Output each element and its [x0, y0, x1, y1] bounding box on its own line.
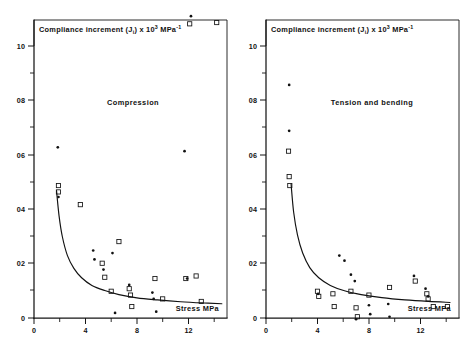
- data-point-filled-dot: [190, 15, 193, 18]
- data-point-filled-dot: [152, 298, 155, 301]
- plot-frame-left: [34, 20, 227, 318]
- y-ticks-left: [28, 46, 34, 318]
- svg-text:Compliance increment (Ji) x 10: Compliance increment (Ji) x 103 MPa-1: [271, 24, 413, 35]
- data-point-open-square: [387, 285, 391, 289]
- data-point-open-square: [56, 183, 60, 187]
- chart-title-right: Compliance increment (Ji) x 103 MPa-1: [271, 24, 413, 35]
- data-point-filled-dot: [186, 277, 189, 280]
- data-point-open-square: [100, 261, 104, 265]
- y-tick-label: 06: [249, 151, 257, 160]
- data-point-open-square: [188, 22, 192, 26]
- x-axis-name-left: Stress MPa: [176, 304, 220, 313]
- data-point-open-square: [331, 292, 335, 296]
- y-tick-label: 08: [249, 96, 257, 105]
- data-point-filled-dot: [369, 313, 372, 316]
- x-tick-labels-right: 0 4 8 12: [264, 326, 425, 335]
- data-point-open-square: [286, 149, 290, 153]
- data-point-filled-dot: [338, 254, 341, 257]
- data-point-open-square: [413, 279, 417, 283]
- data-point-filled-dot: [128, 284, 131, 287]
- series-annotation-right: Tension and bending: [331, 98, 413, 107]
- fit-curve-right: [291, 184, 450, 302]
- chart-svg-right: 10 08 06 04 02 0 0 4 8 12: [232, 0, 463, 348]
- y-tick-labels-left: 10 08 06 04 02 0: [17, 42, 25, 323]
- fit-curve-path: [57, 191, 222, 304]
- data-point-open-square: [194, 274, 198, 278]
- chart-panel-compression: 10 08 06 04 02 0 0 4 8 12: [0, 0, 231, 348]
- data-point-filled-dot: [57, 196, 60, 199]
- x-tick-label: 4: [315, 326, 319, 335]
- x-tick-label: 12: [416, 326, 424, 335]
- data-point-open-square: [215, 20, 219, 24]
- y-tick-label: 10: [249, 42, 257, 51]
- plot-frame-right: [266, 20, 459, 318]
- data-point-filled-dot: [343, 259, 346, 262]
- x-ticks-left: [34, 318, 214, 324]
- x-axis-label: Stress MPa: [176, 304, 220, 313]
- svg-text:Compliance increment (Ji) x 10: Compliance increment (Ji) x 103 MPa-1: [39, 24, 181, 35]
- data-point-filled-dot: [388, 315, 391, 318]
- data-points-right: [286, 84, 449, 321]
- data-point-filled-dot: [56, 146, 59, 149]
- data-point-open-square: [354, 306, 358, 310]
- axes-right: [266, 20, 459, 318]
- x-tick-label: 4: [83, 326, 87, 335]
- data-point-filled-dot: [427, 295, 430, 298]
- title-mid: ) x 10: [134, 25, 154, 34]
- data-point-filled-dot: [92, 249, 95, 252]
- data-point-filled-dot: [183, 150, 186, 153]
- data-point-open-square: [130, 304, 134, 308]
- y-tick-label: 10: [17, 42, 25, 51]
- data-points-left: [56, 15, 218, 314]
- data-point-filled-dot: [424, 287, 427, 290]
- data-point-open-square: [287, 175, 291, 179]
- data-point-open-square: [127, 287, 131, 291]
- data-point-filled-dot: [355, 318, 358, 321]
- title-mid: ) x 10: [366, 25, 386, 34]
- data-point-filled-dot: [111, 252, 114, 255]
- title-lead: Compliance increment (J: [39, 25, 133, 34]
- figure-container: 10 08 06 04 02 0 0 4 8 12: [0, 0, 463, 348]
- annotation-tension-bending: Tension and bending: [331, 98, 413, 107]
- axes-left: [34, 20, 227, 318]
- data-point-filled-dot: [387, 303, 390, 306]
- fit-curve-path: [291, 184, 450, 302]
- data-point-filled-dot: [317, 292, 320, 295]
- title-unit-superscript: -1: [176, 24, 181, 30]
- data-point-filled-dot: [114, 312, 117, 315]
- y-tick-label: 04: [249, 205, 257, 214]
- y-tick-label: 08: [17, 96, 25, 105]
- y-tick-labels-right: 10 08 06 04 02 0: [249, 42, 257, 323]
- data-point-filled-dot: [288, 129, 291, 132]
- y-tick-label: 0: [21, 314, 25, 323]
- data-point-open-square: [117, 239, 121, 243]
- chart-svg-left: 10 08 06 04 02 0 0 4 8 12: [0, 0, 231, 348]
- title-unit: MPa: [390, 25, 409, 34]
- y-tick-label: 0: [253, 314, 257, 323]
- data-point-open-square: [332, 304, 336, 308]
- x-tick-label: 0: [32, 326, 36, 335]
- data-point-open-square: [153, 276, 157, 280]
- data-point-filled-dot: [151, 291, 154, 294]
- title-lead: Compliance increment (J: [271, 25, 365, 34]
- title-unit: MPa: [158, 25, 177, 34]
- chart-panel-tension-bending: 10 08 06 04 02 0 0 4 8 12: [232, 0, 463, 348]
- x-tick-label: 0: [264, 326, 268, 335]
- x-tick-label: 8: [367, 326, 371, 335]
- data-point-open-square: [103, 275, 107, 279]
- y-tick-label: 02: [17, 259, 25, 268]
- y-tick-label: 02: [249, 259, 257, 268]
- fit-curve-left: [57, 191, 222, 304]
- data-point-filled-dot: [350, 273, 353, 276]
- data-point-filled-dot: [368, 304, 371, 307]
- title-unit-superscript: -1: [408, 24, 413, 30]
- y-tick-label: 06: [17, 151, 25, 160]
- data-point-filled-dot: [93, 258, 96, 261]
- data-point-filled-dot: [155, 310, 158, 313]
- x-tick-label: 8: [135, 326, 139, 335]
- data-point-filled-dot: [413, 275, 416, 278]
- x-tick-labels-left: 0 4 8 12: [32, 326, 193, 335]
- series-annotation-left: Compression: [107, 98, 159, 107]
- annotation-compression: Compression: [107, 98, 159, 107]
- chart-title-left: Compliance increment (Ji) x 103 MPa-1: [39, 24, 181, 35]
